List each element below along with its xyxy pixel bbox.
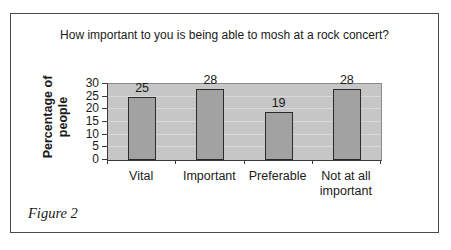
y-axis-tick-labels: 051015202530 <box>51 83 99 159</box>
y-tick-label: 15 <box>51 114 99 128</box>
x-axis-tickmarks <box>107 160 382 165</box>
bar-important <box>196 89 224 160</box>
x-category-label: Vital <box>107 169 175 184</box>
chart-figure-border: How important to you is being able to mo… <box>10 13 439 233</box>
y-tick-label: 0 <box>51 152 99 166</box>
x-category-label: Not at all important <box>312 169 380 199</box>
chart-title: How important to you is being able to mo… <box>11 28 438 43</box>
bar-value-label: 19 <box>257 96 301 110</box>
plot-area: 25281928 <box>107 83 382 161</box>
y-tick-label: 25 <box>51 89 99 103</box>
y-tick-label: 5 <box>51 139 99 153</box>
x-axis-tickmark <box>312 160 313 164</box>
bar-value-label: 28 <box>325 73 369 87</box>
x-category-label: Important <box>175 169 243 184</box>
bar-preferable <box>265 112 293 160</box>
figure-2-panel: How important to you is being able to mo… <box>0 0 451 250</box>
x-axis-tickmark <box>380 160 381 164</box>
y-tick-label: 30 <box>51 76 99 90</box>
y-tick-label: 10 <box>51 127 99 141</box>
x-axis-tickmark <box>107 160 108 164</box>
x-category-label: Preferable <box>244 169 312 184</box>
figure-caption: Figure 2 <box>28 205 78 222</box>
bar-value-label: 25 <box>120 81 164 95</box>
x-axis-tickmark <box>175 160 176 164</box>
x-axis-labels: VitalImportantPreferableNot at all impor… <box>107 169 382 203</box>
bar-not-at-all-important <box>333 89 361 160</box>
bar-value-label: 28 <box>188 73 232 87</box>
y-tick-label: 20 <box>51 101 99 115</box>
bar-vital <box>128 97 156 160</box>
x-axis-tickmark <box>244 160 245 164</box>
